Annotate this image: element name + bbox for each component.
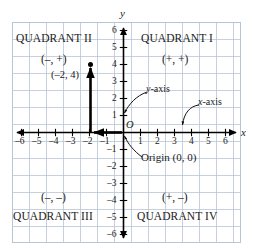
y-tick--1: –1	[107, 145, 117, 155]
x-axis-callout: x-axis	[198, 97, 222, 107]
y-tick-6: 6	[112, 26, 117, 36]
quadrant-4-signs: (+, –)	[162, 192, 188, 204]
origin-letter: O	[126, 120, 134, 131]
y-axis-callout: y-axis	[146, 84, 170, 94]
x-tick--2: –2	[83, 137, 93, 147]
x-tick--4: –4	[49, 137, 59, 147]
quadrant-3-label: QUADRANT III	[13, 211, 93, 223]
y-tick--3: –3	[107, 179, 117, 189]
x-tick--5: –5	[32, 137, 42, 147]
y-axis-callout-suffix: -axis	[150, 83, 169, 94]
y-tick--2: –2	[107, 162, 117, 172]
quadrant-1-signs: (+, +)	[162, 54, 188, 66]
quadrant-3-signs: (–, –)	[41, 192, 66, 204]
quadrant-1-label: QUADRANT I	[141, 33, 213, 45]
x-tick-4: 4	[189, 137, 194, 147]
coordinate-plane-figure: x y O QUADRANT II QUADRANT I QUADRANT II…	[0, 0, 253, 249]
y-tick-5: 5	[112, 43, 117, 53]
origin-callout: Origin (0, 0)	[141, 152, 196, 163]
y-tick--6: –6	[107, 230, 117, 240]
x-tick-3: 3	[172, 137, 177, 147]
x-tick--6: –6	[15, 137, 25, 147]
quadrant-2-signs: (–, +)	[41, 54, 67, 66]
plotted-point	[88, 62, 93, 67]
point-label: (–2, 4)	[51, 70, 79, 81]
y-tick--4: –4	[107, 196, 117, 206]
x-tick--3: –3	[66, 137, 76, 147]
y-axis-name: y	[120, 8, 125, 19]
x-tick-5: 5	[206, 137, 211, 147]
x-tick-6: 6	[223, 137, 228, 147]
y-tick-4: 4	[112, 60, 117, 70]
quadrant-2-label: QUADRANT II	[16, 33, 92, 45]
y-tick-1: 1	[112, 111, 117, 121]
y-tick-3: 3	[112, 77, 117, 87]
y-tick--5: –5	[107, 213, 117, 223]
y-tick-2: 2	[112, 94, 117, 104]
quadrant-4-label: QUADRANT IV	[137, 211, 217, 223]
x-axis-name: x	[241, 127, 246, 138]
x-tick-1: 1	[138, 137, 143, 147]
x-axis-callout-suffix: -axis	[202, 96, 221, 107]
x-tick-2: 2	[155, 137, 160, 147]
